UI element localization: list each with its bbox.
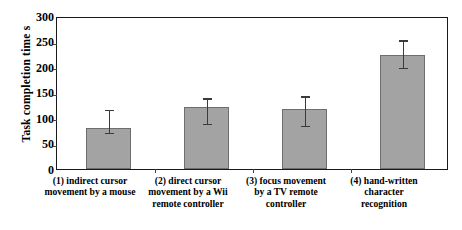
x-tickmark-2 — [253, 169, 254, 173]
y-tickmark-50 — [53, 146, 57, 147]
y-tickmark-200 — [53, 69, 57, 70]
error-bar-category-1 — [109, 111, 110, 169]
x-category-label-3-line-3: controller — [232, 198, 340, 209]
y-tickmark-150 — [53, 95, 57, 96]
plot-area — [56, 17, 448, 170]
x-category-label-4-line-1: (4) hand-written — [330, 175, 438, 186]
error-bar-category-3 — [305, 98, 306, 169]
y-tick-label-100: 100 — [20, 113, 54, 125]
x-category-label-2-line-3: remote controller — [134, 198, 242, 209]
x-category-label-1-line-1: (1) indirect cursor — [36, 175, 144, 186]
y-tick-label-150: 150 — [20, 87, 54, 99]
x-category-label-4-line-3: recognition — [330, 198, 438, 209]
x-category-label-3-line-2: by a TV remote — [232, 186, 340, 197]
x-category-label-4-line-2: character — [330, 186, 438, 197]
x-category-label-3-line-1: (3) focus movement — [232, 175, 340, 186]
x-category-label-2-line-1: (2) direct cursor — [134, 175, 242, 186]
x-category-label-3: (3) focus movement by a TV remote contro… — [232, 175, 340, 209]
x-category-label-2-line-2: movement by a Wii — [134, 186, 242, 197]
y-tick-label-200: 200 — [20, 62, 54, 74]
x-tickmark-3 — [351, 169, 352, 173]
x-category-label-1: (1) indirect cursor movement by a mouse — [36, 175, 144, 198]
y-tickmark-250 — [53, 44, 57, 45]
y-tick-label-50: 50 — [20, 138, 54, 150]
y-tick-label-300: 300 — [20, 11, 54, 23]
y-tickmark-100 — [53, 120, 57, 121]
error-bar-category-2 — [207, 100, 208, 169]
y-tick-label-250: 250 — [20, 36, 54, 48]
x-category-label-2: (2) direct cursor movement by a Wii remo… — [134, 175, 242, 209]
x-category-label-1-line-2: movement by a mouse — [36, 186, 144, 197]
x-category-label-4: (4) hand-written character recognition — [330, 175, 438, 209]
x-tickmark-1 — [155, 169, 156, 173]
bar-chart: Task completion time s 300 250 200 150 1… — [0, 0, 462, 230]
error-bar-category-4 — [403, 42, 404, 170]
